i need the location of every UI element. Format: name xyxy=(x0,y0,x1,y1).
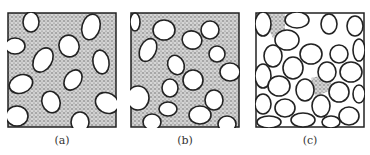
panel-b xyxy=(130,12,240,128)
panel-c-figure xyxy=(255,12,365,128)
panel-c xyxy=(255,12,365,128)
panel-a-label: (a) xyxy=(7,134,117,147)
panel-a xyxy=(7,12,117,128)
panel-a-figure xyxy=(7,12,117,128)
panel-c-label: (c) xyxy=(255,134,365,147)
panel-b-figure xyxy=(130,12,240,128)
panel-b-label: (b) xyxy=(130,134,240,147)
